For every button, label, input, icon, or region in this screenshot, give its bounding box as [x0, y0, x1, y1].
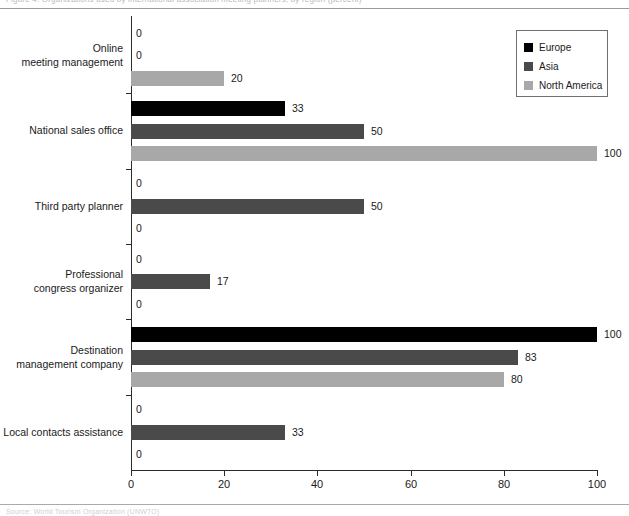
bar-value-label: 0: [136, 297, 142, 312]
bar-asia[interactable]: [131, 274, 210, 289]
footer-rule: [0, 504, 629, 505]
category-label-line: Local contacts assistance: [0, 426, 127, 440]
category-label-line: Third party planner: [0, 200, 127, 214]
y-axis-group-tick: [126, 244, 132, 245]
bar-value-label: 0: [136, 402, 142, 417]
x-axis-tick: [411, 471, 412, 476]
y-axis-group-tick: [126, 169, 132, 170]
category-label-3: Third party planner: [0, 200, 131, 214]
category-label-1: Onlinemeeting management: [0, 42, 131, 69]
bar-north-america[interactable]: [131, 71, 224, 86]
bar-value-label: 83: [525, 350, 537, 365]
bar-value-label: 100: [604, 146, 622, 161]
x-axis-tick-label: 100: [577, 478, 617, 490]
category-label-line: National sales office: [0, 124, 127, 138]
bar-value-label: 0: [136, 447, 142, 462]
bar-value-label: 33: [292, 425, 304, 440]
bar-value-label: 0: [136, 48, 142, 63]
bar-value-label: 80: [511, 372, 523, 387]
category-label-4: Professionalcongress organizer: [0, 268, 131, 295]
bar-asia[interactable]: [131, 124, 364, 139]
x-axis-line: [131, 470, 598, 471]
bar-north-america[interactable]: [131, 372, 504, 387]
category-label-6: Local contacts assistance: [0, 426, 131, 440]
clipped-figure-caption: Figure 4. Organizations used by internat…: [6, 0, 623, 4]
legend-swatch-north-america-icon: [524, 81, 533, 90]
x-axis-tick-label: 40: [297, 478, 337, 490]
bar-value-label: 0: [136, 26, 142, 41]
chart-page: Figure 4. Organizations used by internat…: [0, 0, 629, 516]
legend-item-north-america[interactable]: North America: [524, 76, 607, 95]
legend-item-asia[interactable]: Asia: [524, 57, 607, 76]
bar-value-label: 33: [292, 101, 304, 116]
bar-value-label: 0: [136, 252, 142, 267]
legend-label-europe: Europe: [539, 42, 571, 53]
category-label-line: Professional: [0, 268, 127, 282]
x-axis-tick-label: 20: [204, 478, 244, 490]
bar-value-label: 0: [136, 176, 142, 191]
bar-value-label: 17: [217, 274, 229, 289]
x-axis-tick-label: 80: [484, 478, 524, 490]
bar-value-label: 20: [231, 71, 243, 86]
legend-swatch-asia-icon: [524, 62, 533, 71]
y-axis-group-tick: [126, 93, 132, 94]
bar-asia[interactable]: [131, 350, 518, 365]
category-label-line: management company: [0, 358, 127, 372]
x-axis-tick: [131, 471, 132, 476]
category-label-line: congress organizer: [0, 282, 127, 296]
category-label-line: Online: [0, 42, 127, 56]
x-axis-tick-label: 0: [111, 478, 151, 490]
bar-value-label: 50: [371, 124, 383, 139]
y-axis-group-tick: [126, 395, 132, 396]
bar-north-america[interactable]: [131, 146, 597, 161]
category-label-5: Destinationmanagement company: [0, 344, 131, 371]
legend-label-asia: Asia: [539, 61, 558, 72]
header-rule: [0, 8, 629, 9]
x-axis-tick-label: 60: [391, 478, 431, 490]
category-label-line: meeting management: [0, 56, 127, 70]
bar-value-label: 0: [136, 221, 142, 236]
x-axis-tick: [224, 471, 225, 476]
bar-asia[interactable]: [131, 199, 364, 214]
bar-asia[interactable]: [131, 425, 285, 440]
bar-value-label: 50: [371, 199, 383, 214]
bar-europe[interactable]: [131, 101, 285, 116]
legend-label-north-america: North America: [539, 80, 602, 91]
x-axis-tick: [597, 471, 598, 476]
bar-value-label: 100: [604, 327, 622, 342]
x-axis-tick: [317, 471, 318, 476]
legend-swatch-europe-icon: [524, 43, 533, 52]
category-label-2: National sales office: [0, 124, 131, 138]
legend-item-europe[interactable]: Europe: [524, 38, 607, 57]
bar-europe[interactable]: [131, 327, 597, 342]
clipped-source-note: Source: World Tourism Organization (UNWT…: [6, 508, 406, 516]
category-label-line: Destination: [0, 344, 127, 358]
x-axis-tick: [504, 471, 505, 476]
chart-legend: Europe Asia North America: [516, 30, 608, 97]
y-axis-group-tick: [126, 319, 132, 320]
